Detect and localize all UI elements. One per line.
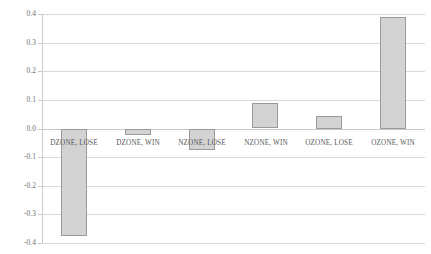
category-label: NZONE, WIN [234,139,298,148]
category-label: DZONE, WIN [106,139,170,148]
category-label: OZONE, WIN [361,139,425,148]
category-labels: DZONE, LOSEDZONE, WINNZONE, LOSENZONE, W… [0,0,431,254]
bar-chart: 0.40.30.20.10.0-0.1-0.2-0.3-0.4 DZONE, L… [0,0,431,254]
category-label: OZONE, LOSE [297,139,361,148]
category-label: NZONE, LOSE [170,139,234,148]
category-label: DZONE, LOSE [42,139,106,148]
